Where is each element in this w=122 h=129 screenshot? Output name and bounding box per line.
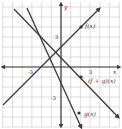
label-f-plus-g: (f + g)(x) xyxy=(88,77,116,85)
line-f-plus-g xyxy=(14,9,118,117)
y-tick-neg3: -3 xyxy=(51,95,56,101)
label-f: f(x) xyxy=(84,22,96,30)
y-tick-3: 3 xyxy=(55,34,58,40)
x-axis-label: x xyxy=(113,68,117,75)
y-axis-label: y xyxy=(63,3,68,11)
point-f xyxy=(79,25,82,28)
point-g xyxy=(77,111,80,114)
point-f-plus-g xyxy=(79,75,82,78)
x-tick-3: 3 xyxy=(89,69,92,75)
x-tick-neg3: -3 xyxy=(28,69,33,75)
label-g: g(x) xyxy=(84,110,97,118)
function-graph: y x -3 3 3 -3 f(x) g(x) (f + g)(x) xyxy=(0,0,122,129)
